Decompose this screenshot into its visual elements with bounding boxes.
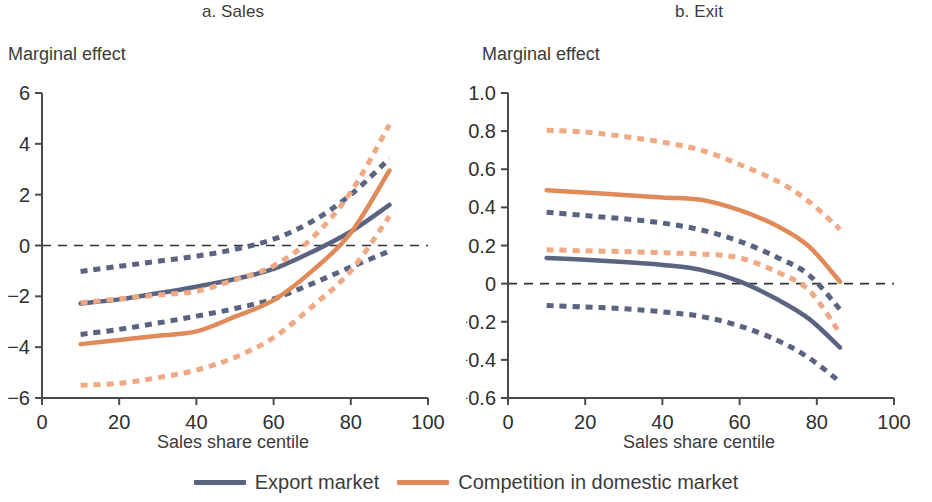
y-tick-label: 0.4 [468,196,496,218]
x-tick-label: 20 [574,411,596,433]
x-tick-label: 80 [806,411,828,433]
legend-swatch-line-icon [397,480,449,485]
series-line [81,171,390,345]
y-tick-label: 0.6 [468,158,496,180]
panel-a-plot: −6−4−20246020406080100 [0,0,466,460]
y-tick-label: −0.2 [466,311,496,333]
panel-a-sales: a. Sales Marginal effect −6−4−2024602040… [0,0,466,460]
panels-container: a. Sales Marginal effect −6−4−2024602040… [0,0,932,460]
y-tick-label: −2 [7,285,30,307]
y-tick-label: −0.4 [466,349,496,371]
series-line [81,159,390,272]
panel-a-x-axis-title: Sales share centile [0,432,466,453]
x-tick-label: 100 [411,411,444,433]
y-tick-label: 1.0 [468,82,496,104]
panel-b-plot: −0.6−0.4−0.200.20.40.60.81.0020406080100 [466,0,932,460]
legend-item: Competition in domestic market [397,471,738,494]
x-tick-label: 100 [877,411,910,433]
y-tick-label: 0.2 [468,235,496,257]
chart-legend: Export marketCompetition in domestic mar… [0,462,932,502]
series-line [547,306,840,382]
series-line [81,205,390,304]
x-tick-label: 60 [262,411,284,433]
y-tick-label: 0 [19,235,30,257]
panel-b-x-axis-title: Sales share centile [466,432,932,453]
y-tick-label: −0.6 [466,387,496,409]
y-tick-label: −6 [7,387,30,409]
panel-b-exit: b. Exit Marginal effect −0.6−0.4−0.200.2… [466,0,932,460]
y-tick-label: 4 [19,133,30,155]
y-tick-label: 6 [19,82,30,104]
series-line [81,125,390,303]
x-tick-label: 80 [340,411,362,433]
figure-root: a. Sales Marginal effect −6−4−2024602040… [0,0,932,502]
legend-swatch-line-icon [194,480,246,485]
legend-item: Export market [194,471,379,494]
x-tick-label: 0 [36,411,47,433]
series-line [81,251,390,334]
x-tick-label: 60 [728,411,750,433]
x-tick-label: 40 [185,411,207,433]
legend-label: Export market [255,471,379,494]
x-tick-label: 0 [502,411,513,433]
y-tick-label: 0 [485,273,496,295]
series-line [547,258,840,348]
x-tick-label: 40 [651,411,673,433]
y-tick-label: 2 [19,184,30,206]
legend-label: Competition in domestic market [458,471,738,494]
y-tick-label: 0.8 [468,120,496,142]
y-tick-label: −4 [7,336,30,358]
x-tick-label: 20 [108,411,130,433]
